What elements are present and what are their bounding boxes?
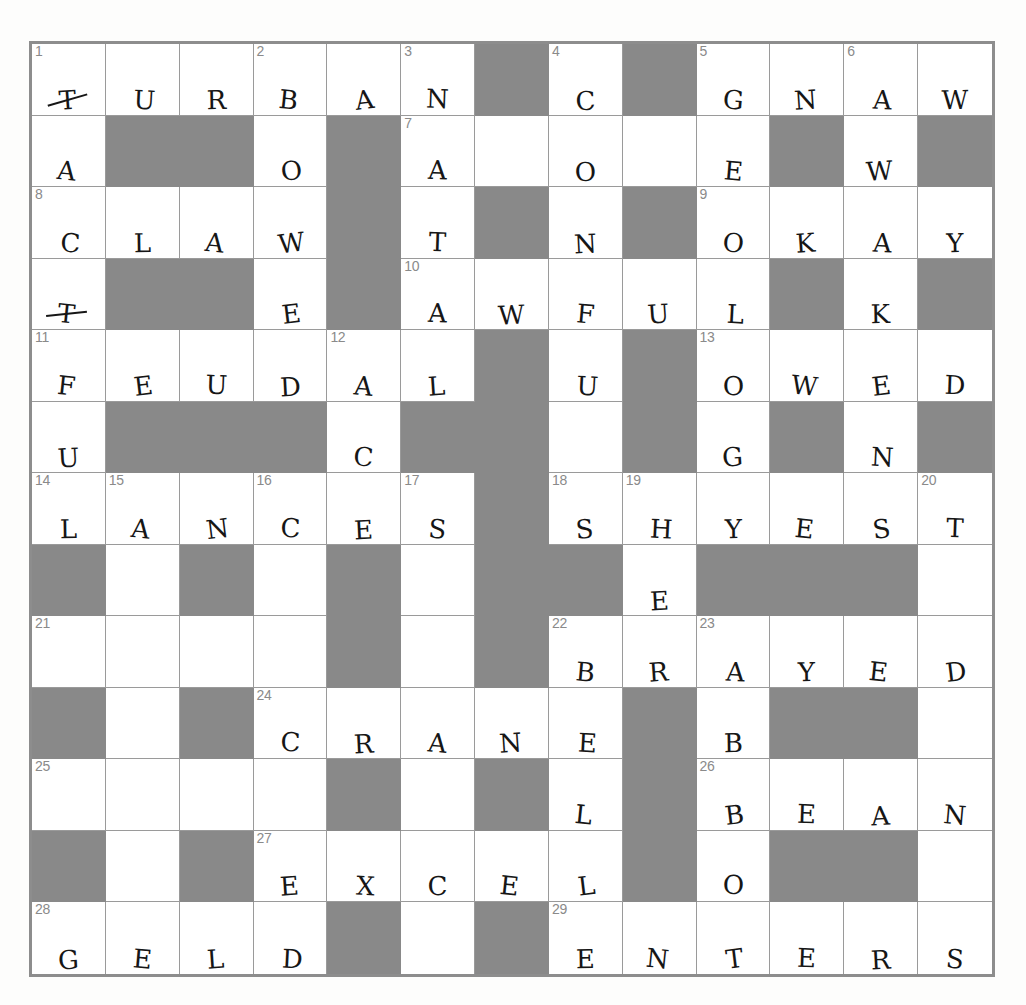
grid-letter-cell[interactable]: 8C (32, 187, 106, 259)
grid-letter-cell[interactable] (918, 545, 992, 617)
grid-letter-cell[interactable]: E (549, 688, 623, 760)
grid-letter-cell[interactable]: A (32, 116, 106, 188)
grid-letter-cell[interactable]: E (254, 259, 328, 331)
grid-letter-cell[interactable] (254, 545, 328, 617)
grid-letter-cell[interactable]: W (770, 330, 844, 402)
grid-letter-cell[interactable] (106, 759, 180, 831)
grid-letter-cell[interactable]: O (254, 116, 328, 188)
grid-letter-cell[interactable]: D (918, 616, 992, 688)
grid-letter-cell[interactable]: R (623, 616, 697, 688)
grid-letter-cell[interactable]: N (770, 44, 844, 116)
grid-letter-cell[interactable]: E (844, 616, 918, 688)
grid-letter-cell[interactable]: T (32, 259, 106, 331)
grid-letter-cell[interactable] (254, 759, 328, 831)
grid-letter-cell[interactable]: T (697, 902, 771, 974)
grid-letter-cell[interactable]: N (918, 759, 992, 831)
grid-letter-cell[interactable]: C (327, 402, 401, 474)
grid-letter-cell[interactable]: U (32, 402, 106, 474)
grid-letter-cell[interactable]: 19H (623, 473, 697, 545)
grid-letter-cell[interactable]: N (549, 187, 623, 259)
grid-letter-cell[interactable]: 24C (254, 688, 328, 760)
grid-letter-cell[interactable] (401, 902, 475, 974)
grid-letter-cell[interactable] (180, 759, 254, 831)
crossword-grid[interactable]: 1TUR2BA3N4C5GN6AWAO7AOEW8CLAWTN9OKAYTE10… (32, 44, 992, 974)
grid-letter-cell[interactable]: 23A (697, 616, 771, 688)
grid-letter-cell[interactable]: 4C (549, 44, 623, 116)
grid-letter-cell[interactable]: N (623, 902, 697, 974)
grid-letter-cell[interactable] (918, 688, 992, 760)
grid-letter-cell[interactable]: 29E (549, 902, 623, 974)
grid-letter-cell[interactable]: U (106, 44, 180, 116)
grid-letter-cell[interactable]: O (697, 831, 771, 903)
grid-letter-cell[interactable] (106, 616, 180, 688)
grid-letter-cell[interactable]: E (697, 116, 771, 188)
grid-letter-cell[interactable] (549, 402, 623, 474)
grid-letter-cell[interactable]: L (106, 187, 180, 259)
grid-letter-cell[interactable] (106, 688, 180, 760)
grid-letter-cell[interactable]: 11F (32, 330, 106, 402)
grid-letter-cell[interactable]: U (549, 330, 623, 402)
grid-letter-cell[interactable]: Y (770, 616, 844, 688)
grid-letter-cell[interactable]: Y (918, 187, 992, 259)
grid-letter-cell[interactable] (401, 616, 475, 688)
grid-letter-cell[interactable]: 10A (401, 259, 475, 331)
grid-letter-cell[interactable]: W (918, 44, 992, 116)
grid-letter-cell[interactable] (475, 116, 549, 188)
grid-letter-cell[interactable]: E (327, 473, 401, 545)
grid-letter-cell[interactable]: T (401, 187, 475, 259)
grid-letter-cell[interactable]: X (327, 831, 401, 903)
grid-letter-cell[interactable] (254, 616, 328, 688)
grid-letter-cell[interactable]: G (697, 402, 771, 474)
grid-letter-cell[interactable]: 1T (32, 44, 106, 116)
grid-letter-cell[interactable]: 13O (697, 330, 771, 402)
grid-letter-cell[interactable] (106, 831, 180, 903)
grid-letter-cell[interactable]: E (106, 902, 180, 974)
grid-letter-cell[interactable]: L (549, 759, 623, 831)
grid-letter-cell[interactable]: Y (697, 473, 771, 545)
grid-letter-cell[interactable] (401, 545, 475, 617)
grid-letter-cell[interactable]: E (623, 545, 697, 617)
grid-letter-cell[interactable]: 21 (32, 616, 106, 688)
grid-letter-cell[interactable]: W (844, 116, 918, 188)
grid-letter-cell[interactable] (623, 116, 697, 188)
grid-letter-cell[interactable] (180, 616, 254, 688)
grid-letter-cell[interactable]: S (844, 473, 918, 545)
grid-letter-cell[interactable]: 16C (254, 473, 328, 545)
grid-letter-cell[interactable]: S (918, 902, 992, 974)
grid-letter-cell[interactable]: A (180, 187, 254, 259)
grid-letter-cell[interactable]: 9O (697, 187, 771, 259)
grid-letter-cell[interactable]: 28G (32, 902, 106, 974)
grid-letter-cell[interactable]: L (549, 831, 623, 903)
grid-letter-cell[interactable]: A (401, 688, 475, 760)
grid-letter-cell[interactable] (401, 759, 475, 831)
grid-letter-cell[interactable]: W (254, 187, 328, 259)
grid-letter-cell[interactable] (106, 545, 180, 617)
grid-letter-cell[interactable]: A (844, 759, 918, 831)
grid-letter-cell[interactable]: D (254, 330, 328, 402)
grid-letter-cell[interactable]: 6A (844, 44, 918, 116)
grid-letter-cell[interactable]: R (844, 902, 918, 974)
grid-letter-cell[interactable]: E (475, 831, 549, 903)
grid-letter-cell[interactable]: A (327, 44, 401, 116)
grid-letter-cell[interactable]: D (254, 902, 328, 974)
grid-letter-cell[interactable]: L (697, 259, 771, 331)
grid-letter-cell[interactable]: C (401, 831, 475, 903)
grid-letter-cell[interactable]: 7A (401, 116, 475, 188)
grid-letter-cell[interactable]: 22B (549, 616, 623, 688)
grid-letter-cell[interactable]: A (844, 187, 918, 259)
grid-letter-cell[interactable]: 25 (32, 759, 106, 831)
grid-letter-cell[interactable]: N (180, 473, 254, 545)
grid-letter-cell[interactable]: E (770, 473, 844, 545)
grid-letter-cell[interactable]: 27E (254, 831, 328, 903)
grid-letter-cell[interactable]: D (918, 330, 992, 402)
grid-letter-cell[interactable]: U (623, 259, 697, 331)
grid-letter-cell[interactable]: E (844, 330, 918, 402)
grid-letter-cell[interactable]: U (180, 330, 254, 402)
grid-letter-cell[interactable]: O (549, 116, 623, 188)
grid-letter-cell[interactable]: K (770, 187, 844, 259)
grid-letter-cell[interactable]: E (770, 902, 844, 974)
grid-letter-cell[interactable]: 5G (697, 44, 771, 116)
grid-letter-cell[interactable]: 2B (254, 44, 328, 116)
grid-letter-cell[interactable]: 3N (401, 44, 475, 116)
grid-letter-cell[interactable]: W (475, 259, 549, 331)
